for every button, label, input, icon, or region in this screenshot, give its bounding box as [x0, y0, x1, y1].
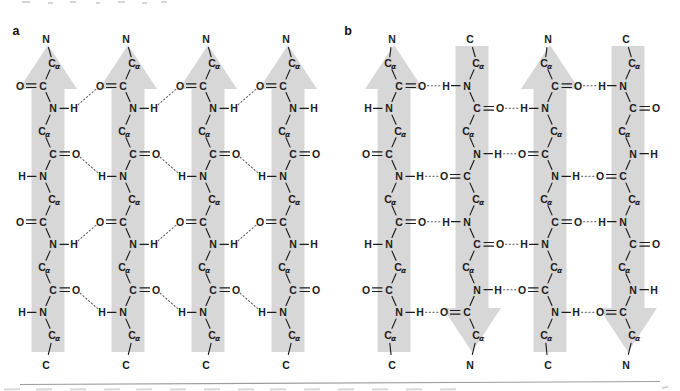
substituent-atom-label: O: [596, 170, 604, 182]
substituent-atom-label: O: [418, 216, 426, 228]
backbone-atom-label: N: [129, 238, 137, 250]
backbone-atom-label: N: [551, 170, 559, 182]
alpha-subscript: α: [547, 334, 553, 343]
terminal-label: C: [544, 359, 552, 371]
backbone-atom-label: N: [385, 238, 393, 250]
terminal-label: N: [42, 33, 50, 45]
hydrogen-bond: [80, 293, 98, 308]
substituent-atom-label: H: [416, 306, 424, 318]
substituent-atom-label: O: [72, 148, 80, 160]
substituent-atom-label: O: [96, 80, 104, 92]
substituent-atom-label: H: [258, 306, 266, 318]
substituent-atom-label: H: [364, 102, 372, 114]
substituent-atom-label: H: [150, 102, 158, 114]
backbone-atom-label: C: [199, 80, 207, 92]
substituent-atom-label: O: [256, 216, 264, 228]
substituent-atom-label: H: [150, 238, 158, 250]
substituent-atom-label: H: [442, 216, 450, 228]
alpha-subscript: α: [479, 334, 485, 343]
substituent-atom-label: O: [176, 216, 184, 228]
terminal-label: N: [202, 33, 210, 45]
substituent-atom-label: O: [16, 216, 24, 228]
alpha-subscript: α: [557, 266, 563, 275]
hydrogen-bond: [238, 225, 256, 240]
alpha-subscript: α: [295, 334, 301, 343]
alpha-subscript: α: [479, 62, 485, 71]
substituent-atom-label: H: [598, 216, 606, 228]
hydrogen-bond: [78, 89, 96, 104]
terminal-label: N: [544, 33, 552, 45]
alpha-subscript: α: [125, 130, 131, 139]
backbone-atom-label: N: [541, 102, 549, 114]
alpha-subscript: α: [635, 334, 641, 343]
alpha-subscript: α: [391, 62, 397, 71]
backbone-atom-label: N: [619, 80, 627, 92]
panel-a: aNCCαCONHCαCONHCαCONHCαCONHCαNCCαCONHCαC…: [13, 24, 321, 371]
backbone-atom-label: N: [473, 148, 481, 160]
substituent-atom-label: H: [310, 238, 318, 250]
backbone-atom-label: N: [289, 102, 297, 114]
substituent-atom-label: O: [96, 216, 104, 228]
hydrogen-bond: [158, 89, 176, 104]
backbone-atom-label: N: [209, 238, 217, 250]
backbone-atom-label: N: [39, 306, 47, 318]
substituent-atom-label: H: [98, 170, 106, 182]
terminal-label: N: [122, 33, 130, 45]
backbone-atom-label: N: [385, 102, 393, 114]
hydrogen-bond: [160, 293, 178, 308]
terminal-label: N: [282, 33, 290, 45]
terminal-label: C: [122, 359, 130, 371]
backbone-atom-label: N: [39, 170, 47, 182]
alpha-subscript: α: [557, 130, 563, 139]
alpha-subscript: α: [547, 198, 553, 207]
cropped-text-remnant: [662, 387, 668, 388]
alpha-subscript: α: [635, 198, 641, 207]
substituent-atom-label: H: [230, 238, 238, 250]
panel-label: a: [13, 24, 21, 38]
terminal-label: C: [42, 359, 50, 371]
backbone-atom-label: C: [279, 216, 287, 228]
backbone-atom-label: N: [279, 306, 287, 318]
backbone-atom-label: C: [551, 216, 559, 228]
backbone-atom-label: C: [129, 148, 137, 160]
hydrogen-bond: [158, 225, 176, 240]
alpha-subscript: α: [469, 130, 475, 139]
substituent-atom-label: H: [310, 102, 318, 114]
alpha-subscript: α: [55, 62, 61, 71]
backbone-atom-label: N: [129, 102, 137, 114]
backbone-atom-label: C: [289, 148, 297, 160]
alpha-subscript: α: [391, 334, 397, 343]
backbone-atom-label: N: [279, 170, 287, 182]
page-artifacts: [4, 2, 668, 390]
alpha-subscript: α: [401, 266, 407, 275]
alpha-subscript: α: [469, 266, 475, 275]
substituent-atom-label: O: [256, 80, 264, 92]
backbone-atom-label: C: [289, 284, 297, 296]
backbone-atom-label: C: [199, 216, 207, 228]
alpha-subscript: α: [135, 198, 141, 207]
substituent-atom-label: H: [650, 284, 658, 296]
substituent-atom-label: H: [494, 284, 502, 296]
backbone-atom-label: N: [199, 170, 207, 182]
backbone-atom-label: N: [395, 170, 403, 182]
substituent-atom-label: O: [72, 284, 80, 296]
backbone-atom-label: C: [209, 284, 217, 296]
backbone-atom-label: C: [463, 306, 471, 318]
backbone-atom-label: C: [395, 80, 403, 92]
substituent-atom-label: H: [178, 170, 186, 182]
substituent-atom-label: O: [596, 306, 604, 318]
terminal-label: N: [388, 33, 396, 45]
substituent-atom-label: H: [18, 306, 26, 318]
substituent-atom-label: H: [572, 306, 580, 318]
substituent-atom-label: O: [152, 148, 160, 160]
substituent-atom-label: O: [232, 148, 240, 160]
backbone-atom-label: N: [629, 148, 637, 160]
substituent-atom-label: H: [442, 80, 450, 92]
alpha-subscript: α: [215, 62, 221, 71]
alpha-subscript: α: [625, 266, 631, 275]
backbone-atom-label: N: [473, 284, 481, 296]
backbone-atom-label: N: [49, 238, 57, 250]
substituent-atom-label: H: [98, 306, 106, 318]
backbone-atom-label: C: [385, 148, 393, 160]
alpha-subscript: α: [205, 130, 211, 139]
